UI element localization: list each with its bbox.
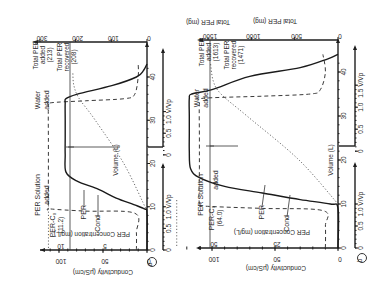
water-added-label-b-2: added (202, 88, 209, 108)
total-per-ticks-b: 050010001500 (202, 33, 341, 40)
per-conc-ticks-a: 510 (57, 243, 107, 250)
panel-marker-b-text: b (356, 258, 363, 262)
tick-label: 10 (57, 243, 65, 250)
tick-label: 0 (357, 246, 364, 250)
volume-axis-label-b: Volume (L) (327, 144, 335, 175)
conductivity-axis-arrow-a (40, 248, 45, 252)
per-curve-a (65, 64, 147, 250)
per-curve-label-a: PER (80, 205, 87, 219)
tick-label: 50 (210, 241, 218, 248)
total-added-label-a-2: added (39, 46, 46, 64)
cond-curve-label-a: Cond (94, 215, 101, 232)
total-added-value-a: (213) (46, 47, 54, 62)
tick-label: 0 (149, 248, 156, 252)
total-added-label-b: Total PER (198, 37, 205, 66)
tick-label: 1.0 (357, 102, 364, 111)
vvp-ticks-b: 00.51.0 V/Vp00.51.01.5 V/Vp (355, 72, 365, 249)
conductivity-ticks-b: 050100 (187, 247, 342, 264)
tick-label: 0 (338, 33, 342, 40)
tick-label: 5 (103, 243, 107, 250)
tick-label: 0.5 (165, 223, 172, 232)
tick-label: 0 (340, 246, 347, 250)
tick-label: 1.0 V/Vp (165, 99, 173, 124)
tick-label: 0.5 (357, 124, 364, 133)
tick-label: 0.5 (357, 221, 364, 230)
c0-value-b: (64.0) (216, 210, 224, 227)
total-added-label-a: Total PER (32, 40, 39, 69)
tick-label: 0 (357, 149, 364, 153)
vvp-axis-2-arrow-a (161, 48, 165, 53)
tick-label: 1.5 V/Vp (357, 72, 365, 97)
c0-value-a: (11.2) (57, 217, 65, 234)
total-per-axis-label-b: Total PER (mg) (253, 17, 297, 25)
water-added-label-a: Water (34, 90, 41, 109)
tick-label: 100 (55, 258, 66, 265)
tick-label: 40 (149, 73, 156, 81)
water-added-label-b: Water (193, 88, 200, 107)
tick-label: 50 (273, 256, 281, 263)
tick-label: 0 (147, 35, 151, 42)
tick-label: 30 (340, 112, 347, 120)
total-per-curve-b (211, 63, 339, 204)
tick-label: 500 (291, 33, 302, 40)
per-solution-label-b: PER Solution (197, 174, 204, 216)
figure-canvas: 0100200300 Total PER (mg) 010203040 0501… (0, 0, 389, 283)
per-solution-label-a-2: added (43, 185, 50, 205)
total-recovered-label-a: Total PER (56, 42, 63, 71)
tick-label: 40 (340, 68, 347, 76)
tick-label: 1000 (246, 33, 261, 40)
total-added-label-b-2: added (205, 43, 212, 61)
tick-label: 0.5 (165, 128, 172, 137)
tick-label: 10 (340, 200, 347, 208)
total-recovered-value-a: (208) (70, 49, 78, 64)
tick-label: 30 (149, 116, 156, 124)
per-curve-label-b: PER (258, 205, 265, 219)
total-recovered-value-b: (1471) (237, 46, 245, 65)
tick-label: 25 (273, 241, 281, 248)
tick-label: 0 (338, 256, 342, 263)
tick-label: 10 (149, 203, 156, 211)
water-added-label-a-2: added (43, 90, 50, 110)
tick-label: 0 (165, 153, 172, 157)
vvp-axis-2-arrow-b (353, 45, 357, 50)
conductivity-axis-label-a: Conductivity (μS/cm) (73, 268, 133, 276)
panel-marker-a-text: a (146, 262, 153, 266)
per-leader-b (262, 185, 265, 207)
volume-ticks-b: 010203040 (338, 63, 347, 250)
conductivity-axis-arrow-b (196, 246, 201, 250)
vvp-ticks-a: 00.51.0 V/Vp00.51.0 V/Vp (163, 99, 173, 252)
volume-ticks-a: 010203040 (147, 68, 156, 251)
tick-label: 20 (149, 160, 156, 168)
per-solution-label-a: PER Solution (34, 174, 41, 216)
tick-label: 0 (165, 248, 172, 252)
tick-label: 200 (72, 35, 83, 42)
per-conc-ticks-b: 2550 (210, 241, 281, 248)
per-conc-axis-label-a: PER Concentration (mg/L) (54, 230, 130, 238)
vvp-axis-1-arrow-b (353, 162, 357, 167)
total-recovered-label-b-2: recovered (230, 40, 237, 69)
volume-axis-label-a: Volume (L) (112, 144, 120, 175)
total-recovered-label-b: Total PER (223, 40, 230, 69)
total-added-value-b: (1613) (212, 43, 220, 62)
conductivity-axis-label-b: Conductivity (μS/cm) (246, 264, 306, 272)
tick-label: 1.0 V/Vp (357, 191, 365, 216)
total-per-ticks-a: 0100200300 (36, 35, 151, 42)
c0-label-b: PER-C₀ (208, 206, 215, 231)
vvp-axis-1-arrow-a (161, 163, 165, 168)
tick-label: 100 (208, 256, 219, 263)
tick-label: 50 (101, 258, 109, 265)
tick-label: 20 (340, 156, 347, 164)
tick-label: 100 (108, 35, 119, 42)
total-per-axis-label-a: Total PER (mg) (186, 18, 230, 26)
per-solution-label-b-2: added (212, 170, 219, 190)
tick-label: 1.0 V/Vp (165, 194, 173, 219)
total-recovered-label-a-2: recovered (63, 42, 70, 71)
panel-b: 050010001500 Total PER (mg) 010203040 05… (177, 17, 367, 272)
per-conc-axis-label-b: PER Concentration (mg/L) (234, 228, 310, 236)
